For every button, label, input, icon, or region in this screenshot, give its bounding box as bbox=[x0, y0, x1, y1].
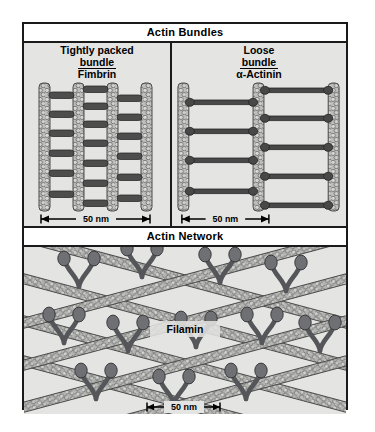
actin-network-body: Filamin 50 nm bbox=[24, 247, 346, 414]
actin-network-header: Actin Network bbox=[24, 226, 346, 247]
filamin-label: Filamin bbox=[167, 323, 204, 335]
actin-bundles-body: Tightly packed bundle Fimbrin bbox=[24, 43, 346, 226]
actin-bundles-header: Actin Bundles bbox=[24, 24, 346, 43]
actin-network-diagram: Filamin 50 nm bbox=[24, 247, 346, 414]
fimbrin-crosslinks bbox=[49, 86, 142, 207]
scale-bar-label: 50 nm bbox=[171, 402, 197, 412]
loose-bundle-panel: Loose bundle α-Actinin bbox=[172, 43, 346, 226]
tightly-packed-bundle-diagram: 50 nm bbox=[24, 43, 170, 226]
loose-bundle-diagram: 50 nm bbox=[172, 43, 346, 226]
tightly-packed-bundle-panel: Tightly packed bundle Fimbrin bbox=[24, 43, 172, 226]
scale-bar-label: 50 nm bbox=[83, 214, 109, 224]
figure-frame: Actin Bundles Tightly packed bundle Fimb… bbox=[22, 22, 348, 410]
scale-bar-label: 50 nm bbox=[213, 214, 239, 224]
